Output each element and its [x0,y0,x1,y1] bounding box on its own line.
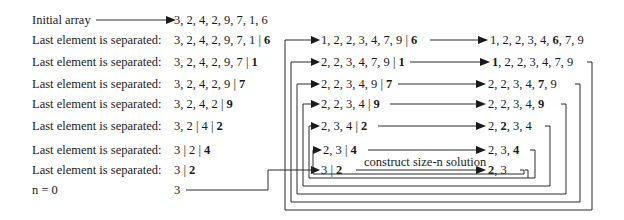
split-row-values: 3, 2 | 4 | 2 [174,119,223,133]
split-row-values: 3 | 2 | 4 [174,143,210,157]
merge-input-row: 1, 2, 2, 3, 4, 7, 9 | 6 [321,33,417,47]
initial-array-label: Initial array [32,13,91,27]
sorted-output-row: 2, 2, 3, 4, 7, 9 [488,77,557,91]
sorted-output-row: 2, 2, 3, 4, 9 [488,97,544,111]
sorted-output-row: 1, 2, 2, 3, 4, 7, 9 [492,55,573,69]
sorted-output-row: 2, 3, 4 [488,143,519,157]
base-case-value: 3 [174,183,180,197]
merge-input-row: 2, 3 | 4 [323,143,357,157]
split-row-label: Last element is separated: [32,77,161,91]
split-row-label: Last element is separated: [32,163,161,177]
split-row-values: 3, 2, 4, 2, 9, 7 | 1 [174,55,258,69]
merge-input-row: 2, 2, 3, 4, 9 | 7 [321,77,392,91]
merge-input-row: 2, 2, 3, 4 | 9 [321,97,380,111]
split-row-label: Last element is separated: [32,119,161,133]
split-row-values: 3, 2, 4, 2, 9 | 7 [174,77,245,91]
split-row-label: Last element is separated: [32,97,161,111]
merge-input-row: 2, 3, 4 | 2 [321,119,367,133]
base-case-label: n = 0 [32,183,58,197]
sorted-output-row: 1, 2, 2, 3, 4, 6, 7, 9 [490,33,584,47]
sorted-output-row: 2, 2, 3, 4 [488,119,532,133]
merge-input-row: 3 | 2 [321,163,342,177]
merge-input-row: 2, 2, 3, 4, 7, 9 | 1 [321,55,405,69]
split-row-values: 3, 2, 4, 2, 9, 7, 1 | 6 [174,33,270,47]
split-row-label: Last element is separated: [32,55,161,69]
split-row-values: 3, 2, 4, 2 | 9 [174,97,233,111]
split-row-values: 3 | 2 [174,163,195,177]
initial-array-values: 3, 2, 4, 2, 9, 7, 1, 6 [174,13,268,27]
split-row-label: Last element is separated: [32,143,161,157]
construct-solution-annotation: construct size-n solution [364,155,486,169]
split-row-label: Last element is separated: [32,33,161,47]
sorted-output-row: 2, 3 [488,163,507,177]
